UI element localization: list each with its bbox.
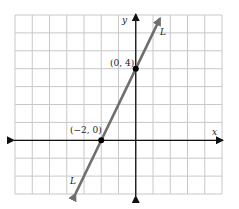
coordinate-plane: y x L L (0, 4) (−2, 0) (0, 0, 239, 209)
point-label-x-intercept: (−2, 0) (70, 125, 102, 135)
point-label-y-intercept: (0, 4) (110, 58, 134, 68)
y-axis-label: y (121, 15, 128, 25)
line-label-top: L (159, 27, 166, 37)
point-x-intercept (98, 137, 104, 143)
line-L (75, 19, 160, 194)
line-label-bottom: L (69, 176, 76, 186)
x-axis-label: x (212, 127, 217, 137)
